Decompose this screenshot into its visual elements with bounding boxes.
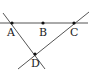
label-a: A [6,26,16,39]
point-a [10,21,13,24]
label-b: B [39,26,47,39]
point-c [72,21,75,24]
line-cd [18,12,89,69]
label-d: D [31,57,40,70]
point-d [33,52,36,55]
geometry-diagram: A B C D [0,0,94,72]
point-b [41,21,44,24]
label-c: C [70,26,78,39]
